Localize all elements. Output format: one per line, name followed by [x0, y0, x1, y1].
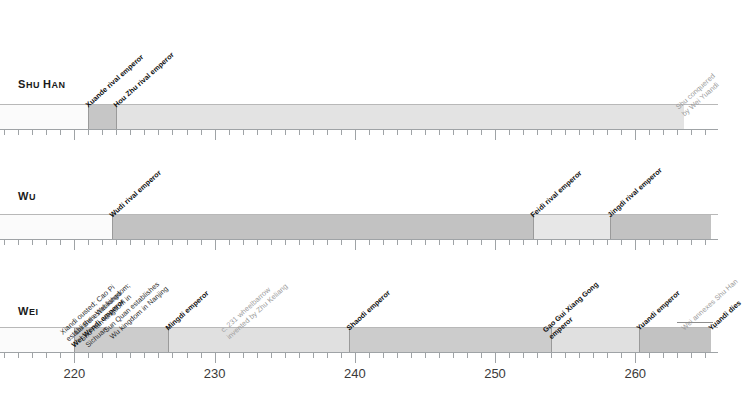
reign-segment[interactable] [88, 105, 116, 129]
axis-tick-minor [172, 353, 173, 358]
axis-tick-label: 240 [344, 366, 366, 381]
reign-segment[interactable] [533, 215, 610, 239]
axis-tick-minor [565, 130, 566, 135]
timeline-event-label[interactable]: Feidi rival emperor [529, 169, 584, 219]
axis-tick-minor [691, 240, 692, 245]
axis-tick-minor [439, 130, 440, 135]
axis-tick-minor [201, 240, 202, 245]
axis-tick-minor [453, 353, 454, 358]
time-axis-line [0, 129, 718, 130]
axis-tick-minor [425, 130, 426, 135]
axis-tick-minor [649, 130, 650, 135]
axis-tick-minor [229, 240, 230, 245]
axis-tick-minor [144, 240, 145, 245]
axis-tick-minor [593, 353, 594, 358]
axis-tick-minor [4, 240, 5, 245]
axis-tick-minor [411, 353, 412, 358]
axis-tick-major [74, 240, 75, 250]
axis-tick-minor [313, 240, 314, 245]
event-leader-rule [677, 322, 713, 323]
axis-tick-minor [187, 353, 188, 358]
axis-tick-minor [467, 240, 468, 245]
axis-tick-minor [229, 353, 230, 358]
axis-tick-minor [327, 240, 328, 245]
axis-tick-minor [369, 130, 370, 135]
reign-segment[interactable] [168, 328, 349, 352]
axis-tick-minor [369, 353, 370, 358]
axis-tick-minor [509, 240, 510, 245]
axis-tick-major [215, 353, 216, 363]
axis-tick-major [355, 353, 356, 363]
reign-segment[interactable] [116, 105, 684, 129]
axis-tick-minor [439, 353, 440, 358]
axis-tick-major [215, 240, 216, 250]
axis-tick-minor [523, 353, 524, 358]
axis-tick-minor [663, 353, 664, 358]
time-axis-line [0, 352, 718, 353]
axis-tick-minor [271, 130, 272, 135]
axis-tick-minor [271, 240, 272, 245]
axis-tick-major [355, 240, 356, 250]
axis-tick-minor [299, 130, 300, 135]
axis-tick-minor [285, 240, 286, 245]
axis-tick-major [74, 353, 75, 363]
axis-tick-minor [481, 130, 482, 135]
reign-segment[interactable] [0, 105, 88, 129]
axis-tick-minor [130, 130, 131, 135]
axis-tick-minor [271, 353, 272, 358]
axis-tick-label: 230 [204, 366, 226, 381]
axis-tick-minor [60, 353, 61, 358]
axis-tick-minor [453, 240, 454, 245]
axis-tick-minor [481, 353, 482, 358]
reign-segment[interactable] [0, 215, 112, 239]
axis-tick-minor [46, 130, 47, 135]
axis-tick-minor [509, 353, 510, 358]
axis-tick-minor [677, 240, 678, 245]
axis-tick-minor [383, 240, 384, 245]
axis-tick-minor [46, 240, 47, 245]
axis-tick-minor [257, 130, 258, 135]
axis-tick-minor [88, 353, 89, 358]
axis-tick-minor [579, 130, 580, 135]
axis-tick-minor [243, 130, 244, 135]
axis-tick-minor [663, 130, 664, 135]
reign-segment[interactable] [349, 328, 551, 352]
reign-segment[interactable] [610, 215, 711, 239]
axis-tick-minor [621, 240, 622, 245]
axis-tick-minor [257, 240, 258, 245]
reign-segment[interactable] [551, 328, 639, 352]
axis-tick-label: 250 [484, 366, 506, 381]
axis-tick-minor [130, 353, 131, 358]
axis-tick-minor [397, 353, 398, 358]
axis-tick-minor [4, 130, 5, 135]
axis-tick-minor [229, 130, 230, 135]
axis-tick-major [495, 353, 496, 363]
axis-tick-minor [102, 240, 103, 245]
timeline-event-label[interactable]: Jingdi rival emperor [606, 166, 664, 219]
axis-tick-minor [649, 353, 650, 358]
axis-tick-minor [677, 353, 678, 358]
axis-tick-minor [187, 130, 188, 135]
axis-tick-minor [565, 240, 566, 245]
row-label-shu-han: SHU HAN [18, 78, 66, 90]
axis-tick-major [495, 130, 496, 140]
axis-tick-minor [537, 240, 538, 245]
axis-tick-minor [593, 130, 594, 135]
axis-tick-major [215, 130, 216, 140]
axis-tick-minor [299, 240, 300, 245]
axis-tick-minor [32, 353, 33, 358]
axis-tick-minor [565, 353, 566, 358]
axis-tick-minor [187, 240, 188, 245]
axis-tick-minor [18, 240, 19, 245]
axis-tick-minor [523, 130, 524, 135]
axis-tick-minor [425, 353, 426, 358]
axis-tick-minor [341, 130, 342, 135]
axis-tick-minor [144, 130, 145, 135]
axis-tick-minor [663, 240, 664, 245]
axis-tick-minor [537, 130, 538, 135]
row-label-wei: WEI [18, 305, 39, 317]
reign-segment[interactable] [639, 328, 711, 352]
timeline-event-label[interactable]: Wudi rival emperor [108, 169, 163, 220]
reign-segment[interactable] [112, 215, 533, 239]
